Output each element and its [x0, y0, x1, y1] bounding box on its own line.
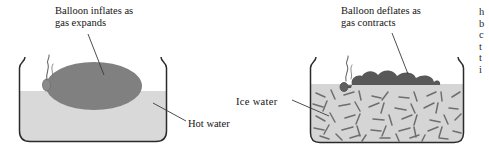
hot-water-beaker-group [18, 34, 186, 143]
balloon-temperature-figure: Balloon inflates as gas expands Balloon … [0, 0, 489, 154]
deflated-balloon-string [346, 56, 349, 81]
callout-balloon-deflates: Balloon deflates as gas contracts [341, 5, 421, 29]
leader-line-deflate [392, 33, 408, 74]
label-hot-water: Hot water [188, 118, 230, 130]
label-ice-water: Ice water [236, 96, 277, 108]
clipped-body-text-column: h b c t t i [479, 6, 489, 76]
balloon-string [47, 55, 50, 80]
callout-balloon-inflates: Balloon inflates as gas expands [55, 5, 133, 29]
ice-water-beaker-group [292, 33, 465, 144]
